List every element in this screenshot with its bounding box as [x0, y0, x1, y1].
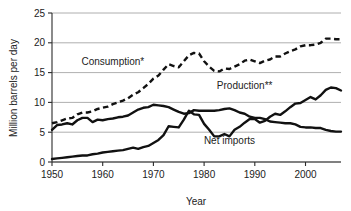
x-tick-label-2000: 2000: [294, 169, 317, 180]
x-tick-labels: 195019601970198019902000: [41, 169, 317, 180]
y-tickmarks: [48, 13, 52, 162]
x-tick-label-1960: 1960: [92, 169, 115, 180]
gridlines: [52, 13, 341, 162]
y-tick-labels: 0510152025: [34, 8, 46, 168]
y-tick-label-10: 10: [34, 97, 46, 108]
series-line-net-imports: [52, 88, 341, 160]
y-tick-label-5: 5: [39, 127, 45, 138]
y-tick-label-25: 25: [34, 8, 46, 19]
x-tickmarks: [52, 162, 306, 166]
series-annotations: Consumption*Production**Net imports: [81, 56, 272, 146]
y-tick-label-0: 0: [39, 157, 45, 168]
axis-lines: [52, 13, 341, 162]
series-annotation-production: Production**: [217, 80, 273, 91]
x-tick-label-1950: 1950: [41, 169, 64, 180]
y-tick-label-20: 20: [34, 37, 46, 48]
chart-figure: 0510152025 195019601970198019902000 Cons…: [0, 0, 351, 211]
x-tick-label-1990: 1990: [244, 169, 267, 180]
y-axis-title: Million barrels per day: [8, 39, 19, 137]
series-annotation-consumption: Consumption*: [81, 56, 144, 67]
x-tick-label-1980: 1980: [193, 169, 216, 180]
line-chart: 0510152025 195019601970198019902000 Cons…: [0, 0, 351, 211]
x-axis-title: Year: [186, 196, 207, 207]
y-tick-label-15: 15: [34, 67, 46, 78]
x-tick-label-1970: 1970: [142, 169, 165, 180]
series-annotation-net-imports: Net imports: [204, 135, 255, 146]
